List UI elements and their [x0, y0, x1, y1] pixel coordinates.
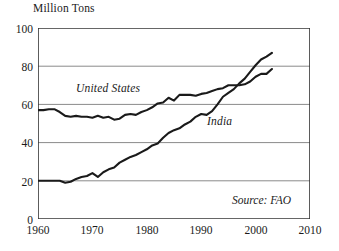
axis-ticks	[38, 28, 310, 219]
series-label-united-states: United States	[76, 82, 140, 94]
data-series-group	[38, 53, 272, 183]
series-line-united-states	[38, 69, 272, 120]
plot-frame	[38, 28, 310, 219]
y-tick-label-100: 100	[3, 23, 33, 35]
x-tick-label-2000: 2000	[236, 224, 276, 236]
x-tick-label-1970: 1970	[72, 224, 112, 236]
x-tick-label-2010: 2010	[290, 224, 330, 236]
chart-plot-svg	[38, 28, 310, 219]
series-label-india: India	[207, 115, 232, 127]
x-tick-label-1980: 1980	[127, 224, 167, 236]
y-tick-label-20: 20	[3, 176, 33, 188]
x-tick-label-1960: 1960	[18, 224, 58, 236]
y-axis-unit-label: Million Tons	[33, 2, 95, 14]
y-tick-label-60: 60	[3, 99, 33, 111]
source-note: Source: FAO	[232, 194, 291, 206]
plot-area	[38, 28, 310, 219]
x-tick-label-1990: 1990	[181, 224, 221, 236]
chart-figure: Million Tons 100 80 60 40 20 0 1960 1970…	[0, 0, 339, 251]
series-line-india	[38, 53, 272, 183]
y-tick-label-80: 80	[3, 61, 33, 73]
y-tick-label-40: 40	[3, 137, 33, 149]
